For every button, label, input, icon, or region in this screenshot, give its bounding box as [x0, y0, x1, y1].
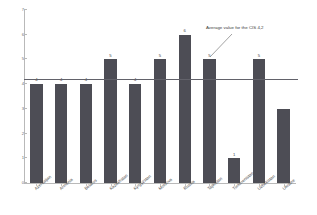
y-axis-tick-label: 4 [0, 82, 24, 86]
bar-slot: 5 [253, 10, 265, 183]
bar[interactable] [104, 59, 116, 183]
bar-value-label: 5 [104, 54, 116, 58]
bar[interactable] [55, 84, 67, 183]
bar[interactable] [179, 35, 191, 183]
bar-slot: 4 [55, 10, 67, 183]
bar-slot: 6 [179, 10, 191, 183]
bar[interactable] [154, 59, 166, 183]
bar-slot: 5 [154, 10, 166, 183]
y-axis-tick-label: 7 [0, 8, 24, 12]
y-axis-tick-label: 3 [0, 107, 24, 111]
bar[interactable] [277, 109, 289, 183]
bar[interactable] [30, 84, 42, 183]
y-axis-tick-label: 2 [0, 132, 24, 136]
bar-slot: 4 [30, 10, 42, 183]
y-axis-tick-label: 6 [0, 33, 24, 37]
bar-slot [277, 10, 289, 183]
y-axis-tick-label: 1 [0, 156, 24, 160]
bar-slot: 5 [104, 10, 116, 183]
bar[interactable] [203, 59, 215, 183]
bar-slot: 4 [80, 10, 92, 183]
bar-value-label: 1 [228, 153, 240, 157]
bar-value-label: 5 [253, 54, 265, 58]
y-axis-tick-label: 5 [0, 57, 24, 61]
bar-slot: 5 [203, 10, 215, 183]
bar-slot: 4 [129, 10, 141, 183]
bar-value-label: 5 [203, 54, 215, 58]
bars-layer: 4445456515 [24, 10, 296, 183]
bar-slot: 1 [228, 10, 240, 183]
average-value-annotation: Average value for the CIS 4,2 [206, 25, 264, 30]
x-axis-category-labels: AzerbaijanArmeniaBelarusKazakhstanKyrgyz… [24, 184, 296, 215]
bar-value-label: 6 [179, 29, 191, 33]
bar[interactable] [228, 158, 240, 183]
bar[interactable] [80, 84, 92, 183]
average-reference-line [24, 79, 298, 80]
y-axis-tick-label: 0 [0, 181, 24, 185]
bar-value-label: 5 [154, 54, 166, 58]
bar-chart: 01234567 4445456515 Average value for th… [0, 0, 317, 215]
bar[interactable] [253, 59, 265, 183]
bar[interactable] [129, 84, 141, 183]
